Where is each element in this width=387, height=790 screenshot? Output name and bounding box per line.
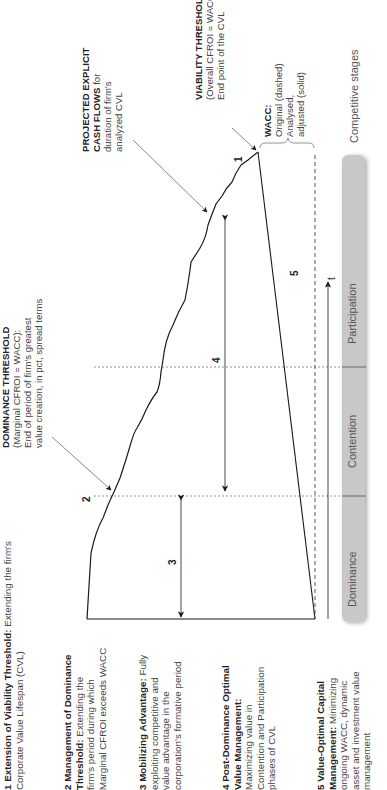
legend-4-text-2: Contention and Participation bbox=[255, 665, 267, 790]
legend-3-text-4: corporation's formative period bbox=[172, 655, 184, 790]
viability-text-1: (Overall CFROI = WACC): bbox=[204, 0, 215, 100]
legend-2-text-2: firm's period during which bbox=[85, 648, 97, 790]
dominance-callout: DOMINANCE THRESHOLD (Marginal CFROI = WA… bbox=[0, 299, 44, 448]
wacc-text-1: Original (dashed) bbox=[273, 63, 284, 137]
projected-pointer bbox=[133, 140, 207, 212]
legend-2-text-3: Marginal CFROI exceeds WACC bbox=[97, 648, 109, 790]
legend-5-title: 5 Value-Optimal Capital bbox=[315, 671, 327, 790]
legend-4-title: 4 Post-Dominance Optimal bbox=[220, 665, 232, 790]
legend-5-title-2: Management: bbox=[327, 727, 338, 790]
wacc-callout: WACC: Original (dashed) Analysed, adjust… bbox=[262, 63, 306, 137]
cash-flow-curve bbox=[87, 152, 258, 619]
legend-5-text-3: asset and investment value bbox=[350, 671, 362, 790]
projected-text-2: duration of firm's bbox=[102, 48, 113, 152]
projected-text-1: for bbox=[91, 74, 102, 88]
legend-item-2: 2 Management of Dominance Threshold: Ext… bbox=[62, 648, 108, 790]
viability-text-2: End point of the CVL bbox=[215, 0, 226, 100]
legend-3-title: 3 Mobilizing Advantage: bbox=[137, 678, 148, 790]
stage-contention: Contention bbox=[346, 415, 358, 468]
viability-callout: VIABILITY THRESHOLD (Overall CFROI = WAC… bbox=[193, 0, 226, 100]
legend-1-text-2: Corporate Value Lifespan (CVL) bbox=[14, 541, 26, 790]
legend-1-text-1: Extending the firm's bbox=[2, 541, 13, 629]
legend-5-text-1: Minimizing bbox=[327, 678, 338, 727]
legend-3-text-1: Fully bbox=[137, 655, 148, 678]
legend-item-3: 3 Mobilizing Advantage: Fully exploiting… bbox=[137, 655, 183, 790]
stage-participation: Participation bbox=[346, 283, 358, 344]
wacc-title: WACC: bbox=[262, 63, 273, 137]
projected-title: PROJECTED EXPLICIT bbox=[80, 48, 91, 152]
time-axis-label: t bbox=[326, 277, 337, 280]
dominance-title: DOMINANCE THRESHOLD bbox=[0, 299, 11, 448]
legend-4-text-3: phases of CVL bbox=[266, 665, 278, 790]
projected-text-3: analyzed CVL bbox=[113, 48, 124, 152]
marker-4: 4 bbox=[211, 357, 222, 363]
marker-5: 5 bbox=[289, 270, 300, 276]
marker-2: 2 bbox=[81, 496, 92, 502]
wacc-text-3: adjusted (solid) bbox=[295, 63, 306, 137]
wacc-adjusted-line bbox=[258, 152, 315, 619]
wacc-brace bbox=[260, 138, 314, 148]
legend-2-text-1: Extending the bbox=[74, 677, 85, 740]
legend-2-title-2: Threshold: bbox=[74, 739, 85, 790]
legend-1-title: 1 Extension of Viability Threshold: bbox=[2, 630, 13, 790]
projected-callout: PROJECTED EXPLICIT CASH FLOWS for durati… bbox=[80, 48, 124, 152]
dominance-pointer bbox=[52, 437, 111, 490]
marker-3: 3 bbox=[167, 559, 178, 565]
legend-3-text-2: exploiting competitive and bbox=[149, 655, 161, 790]
dominance-text-1: (Marginal CFROI = WACC): bbox=[11, 299, 22, 448]
wacc-text-2: Analysed, bbox=[284, 63, 295, 137]
stage-dominance: Dominance bbox=[346, 551, 358, 607]
legend-2-title: 2 Management of Dominance bbox=[62, 648, 74, 790]
legend-4-text-1: Maximizing value in bbox=[243, 665, 255, 790]
legend-item-1: 1 Extension of Viability Threshold: Exte… bbox=[2, 541, 25, 790]
marker-1: 1 bbox=[233, 156, 244, 162]
stages-header: Competitive stages bbox=[348, 49, 360, 143]
legend-item-5: 5 Value-Optimal Capital Management: Mini… bbox=[315, 671, 373, 790]
legend-5-text-2: ongoing WACC, dynamic bbox=[338, 671, 350, 790]
viability-pointer bbox=[232, 128, 256, 150]
dominance-text-3: value creation, in pct, spread terms bbox=[33, 299, 44, 448]
dominance-text-2: End of period of firm's greatest bbox=[22, 299, 33, 448]
viability-title: VIABILITY THRESHOLD bbox=[193, 0, 204, 100]
legend-4-title-2: Value Management: bbox=[232, 665, 244, 790]
projected-title-2: CASH FLOWS bbox=[91, 88, 102, 153]
legend-item-4: 4 Post-Dominance Optimal Value Managemen… bbox=[220, 665, 278, 790]
legend-5-text-4: management bbox=[361, 671, 373, 790]
legend-3-text-3: value advantage in the bbox=[160, 655, 172, 790]
